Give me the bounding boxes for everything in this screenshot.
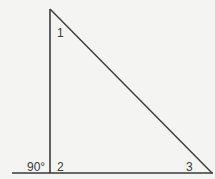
angle-1-label: 1 <box>57 26 64 40</box>
hypotenuse <box>50 9 212 173</box>
right-angle-label: 90° <box>27 160 45 174</box>
angle-2-label: 2 <box>57 160 64 174</box>
angle-3-label: 3 <box>186 160 193 174</box>
triangle-diagram: 1 90° 2 3 <box>0 0 215 179</box>
